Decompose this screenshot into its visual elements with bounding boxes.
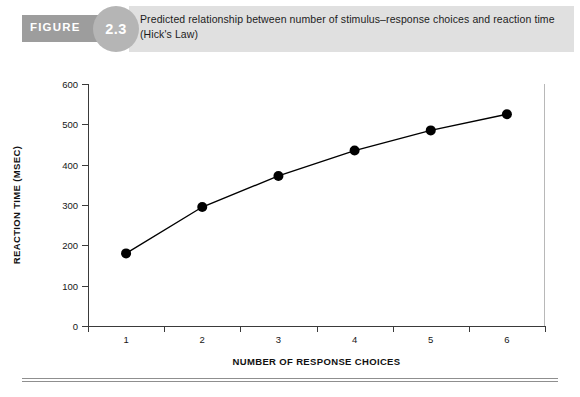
x-axis-title: NUMBER OF RESPONSE CHOICES bbox=[88, 356, 545, 367]
chart-figure: 0100200300400500600 123456 NUMBER OF RES… bbox=[0, 62, 580, 362]
data-point-marker bbox=[197, 202, 207, 212]
data-point-marker bbox=[350, 146, 360, 156]
x-axis-tick-label: 2 bbox=[200, 334, 205, 345]
x-axis-tick bbox=[164, 326, 165, 332]
data-point-marker bbox=[426, 125, 436, 135]
x-axis-tick bbox=[393, 326, 394, 332]
y-axis-tick-label: 200 bbox=[62, 240, 78, 251]
x-axis-tick-label: 3 bbox=[276, 334, 281, 345]
data-point-marker bbox=[121, 248, 131, 258]
y-axis-tick-label: 400 bbox=[62, 159, 78, 170]
data-series-reaction-time bbox=[88, 84, 545, 326]
y-axis-tick-label: 500 bbox=[62, 119, 78, 130]
series-line bbox=[126, 114, 507, 253]
figure-caption-text: Predicted relationship between number of… bbox=[140, 12, 560, 42]
x-axis-tick bbox=[88, 326, 89, 332]
x-axis-tick-label: 4 bbox=[352, 334, 357, 345]
y-axis-tick-label: 600 bbox=[62, 79, 78, 90]
x-axis-tick-label: 6 bbox=[504, 334, 509, 345]
data-point-marker bbox=[502, 109, 512, 119]
x-axis-tick bbox=[469, 326, 470, 332]
footer-rule-bottom bbox=[22, 381, 558, 382]
x-axis-tick bbox=[545, 326, 546, 332]
plot-area: 0100200300400500600 123456 NUMBER OF RES… bbox=[88, 84, 545, 348]
y-axis-title: REACTION TIME (MSEC) bbox=[11, 105, 22, 305]
y-axis-tick-label: 300 bbox=[62, 200, 78, 211]
footer-double-rule bbox=[22, 378, 558, 383]
figure-label-text: FIGURE bbox=[30, 21, 81, 33]
figure-header: FIGURE 2.3 Predicted relationship betwee… bbox=[0, 0, 580, 62]
x-axis-tick bbox=[317, 326, 318, 332]
data-point-marker bbox=[273, 171, 283, 181]
x-axis-tick-label: 5 bbox=[428, 334, 433, 345]
x-axis-tick-labels: 123456 bbox=[88, 334, 545, 350]
x-axis-tick-label: 1 bbox=[123, 334, 128, 345]
figure-number-text: 2.3 bbox=[93, 6, 139, 52]
y-axis-tick-label: 0 bbox=[73, 321, 78, 332]
y-axis-tick-label: 100 bbox=[62, 280, 78, 291]
footer-rule-top bbox=[22, 378, 558, 379]
x-axis-tick bbox=[240, 326, 241, 332]
